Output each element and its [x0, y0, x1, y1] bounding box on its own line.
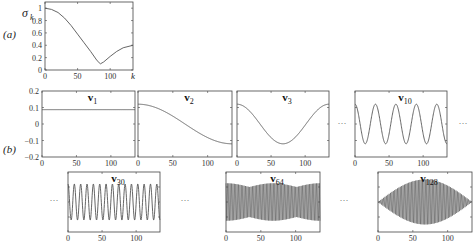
x-tick-label: 50	[267, 159, 275, 168]
y-tick-label: 0	[35, 120, 39, 129]
figure-canvas: 05010000.20.40.60.81σkk0501000.20.10−0.1…	[0, 0, 476, 244]
ellipsis: ···	[338, 118, 347, 128]
eigenvector-plot-v64: 050100v64	[224, 172, 320, 243]
eigenvector-plot-v10: 050100v10	[353, 91, 447, 168]
x-tick-label: 100	[417, 159, 429, 168]
sigma-k-plot: 05010000.20.40.60.81σkk	[22, 2, 136, 81]
x-tick-label: 100	[299, 159, 311, 168]
y-tick-label: 0	[38, 66, 42, 75]
sigma-ylabel: σ	[22, 6, 29, 20]
x-tick-label: 0	[235, 159, 239, 168]
x-tick-label: 50	[98, 234, 106, 243]
sigma-ylabel-sub: k	[30, 13, 34, 22]
y-tick-label: 0.2	[29, 87, 39, 96]
x-tick-label: 0	[224, 234, 228, 243]
x-tick-label: 0	[353, 159, 357, 168]
eigenvector-plot-v1: 0501000.20.10−0.1−0.2v1	[24, 87, 135, 168]
y-tick-label: −0.1	[24, 137, 39, 146]
x-tick-label: 50	[169, 159, 177, 168]
x-tick-label: 0	[43, 72, 47, 81]
y-tick-label: 0.4	[32, 41, 42, 50]
eigenvector-plot-v2: 050100v2	[136, 91, 232, 168]
x-tick-label: 0	[376, 234, 380, 243]
y-tick-label: 0.6	[32, 29, 42, 38]
x-tick-label: 100	[290, 234, 302, 243]
panel-b-label: (b)	[3, 143, 16, 155]
x-tick-label: 50	[74, 72, 82, 81]
y-tick-label: 1	[38, 4, 42, 13]
y-tick-label: −0.2	[24, 153, 39, 162]
eigenvector-plot-v3: 050100v3	[235, 91, 329, 168]
eigenvector-plot-v128: 050100v128	[376, 172, 472, 243]
x-tick-label: 100	[202, 159, 214, 168]
panel-a-label: (a)	[3, 28, 16, 40]
y-tick-label: 0.2	[32, 54, 42, 63]
x-tick-label: 50	[409, 234, 417, 243]
y-tick-label: 0.1	[29, 104, 39, 113]
ellipsis: ···	[50, 195, 59, 205]
x-tick-label: 50	[257, 234, 265, 243]
eigenvector-plot-v30: 050100v30	[66, 172, 160, 243]
x-tick-label: 100	[442, 234, 454, 243]
x-tick-label: 100	[130, 234, 142, 243]
k-xlabel: k	[131, 71, 136, 81]
x-tick-label: 50	[72, 159, 80, 168]
x-tick-label: 0	[66, 234, 70, 243]
x-tick-label: 0	[136, 159, 140, 168]
ellipsis: ···	[340, 195, 349, 205]
x-tick-label: 0	[40, 159, 44, 168]
x-tick-label: 100	[105, 159, 117, 168]
x-tick-label: 100	[104, 72, 116, 81]
ellipsis: ···	[459, 118, 468, 128]
ellipsis: ···	[181, 195, 190, 205]
x-tick-label: 50	[385, 159, 393, 168]
